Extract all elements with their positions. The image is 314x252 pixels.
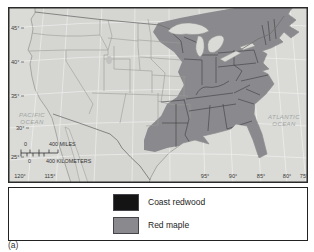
scale-miles-label: 400 MILES xyxy=(49,141,76,147)
latitude-label: 40° xyxy=(11,59,19,65)
scale-miles-zero: 0 xyxy=(24,141,27,147)
atlantic-ocean-label: ATLANTIC xyxy=(267,114,300,120)
latitude-label: 45° xyxy=(11,25,19,31)
pacific-ocean-label: PACIFIC xyxy=(19,112,45,118)
legend-label-coast-redwood: Coast redwood xyxy=(148,197,205,207)
latitude-label: 30° xyxy=(16,125,24,131)
map-canvas: 45° 40° 35° 30° 25° 120° 115° 95° 90° 85… xyxy=(8,7,308,183)
longitude-label: 95° xyxy=(201,173,209,179)
scale-km-zero: 0 xyxy=(28,158,31,164)
longitude-label: 90° xyxy=(229,173,237,179)
longitude-label: 80° xyxy=(283,173,291,179)
map-legend: Coast redwood Red maple xyxy=(8,187,308,241)
scale-km-label: 400 KILOMETERS xyxy=(46,158,92,164)
latitude-label: 25° xyxy=(11,154,19,160)
legend-label-red-maple: Red maple xyxy=(148,220,189,230)
legend-swatch-coast-redwood xyxy=(113,194,139,211)
us-range-map: 45° 40° 35° 30° 25° 120° 115° 95° 90° 85… xyxy=(8,7,308,183)
legend-swatch-red-maple xyxy=(113,217,139,234)
latitude-label: 35° xyxy=(11,93,19,99)
atlantic-ocean-label: OCEAN xyxy=(272,121,296,127)
longitude-label: 120° xyxy=(14,173,26,179)
figure-caption: (a) xyxy=(8,240,18,250)
longitude-label: 115° xyxy=(44,173,55,179)
pacific-ocean-label: OCEAN xyxy=(20,119,44,125)
great-salt-lake xyxy=(106,56,112,64)
longitude-label: 85° xyxy=(257,173,265,179)
